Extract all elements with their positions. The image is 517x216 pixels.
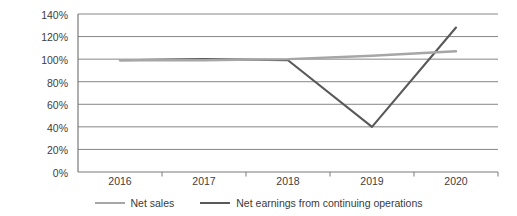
legend-label-net-earnings: Net earnings from continuing operations	[236, 198, 422, 209]
x-tick-label-2019: 2019	[360, 176, 383, 187]
x-tick-label-2016: 2016	[108, 176, 131, 187]
plot-area	[78, 14, 498, 172]
y-axis: 140% 120% 100% 80% 60% 40% 20% 0%	[0, 0, 74, 216]
y-tick-label-0: 0%	[53, 168, 68, 179]
legend-entry-net-earnings[interactable]: Net earnings from continuing operations	[200, 198, 422, 209]
chart-legend: Net sales Net earnings from continuing o…	[0, 195, 517, 211]
y-tick-label-40: 40%	[47, 123, 68, 134]
line-chart: 140% 120% 100% 80% 60% 40% 20% 0%	[0, 0, 517, 216]
x-tick-label-2017: 2017	[192, 176, 215, 187]
y-tick-label-80: 80%	[47, 78, 68, 89]
legend-swatch-net-sales	[95, 202, 125, 205]
y-tick-label-60: 60%	[47, 100, 68, 111]
y-tick-label-100: 100%	[41, 55, 68, 66]
series-line-net-earnings	[120, 28, 456, 127]
y-tick-label-140: 140%	[41, 10, 68, 21]
y-tick-label-120: 120%	[41, 32, 68, 43]
x-axis: 2016 2017 2018 2019 2020	[78, 176, 498, 192]
x-tick-label-2018: 2018	[276, 176, 299, 187]
legend-swatch-net-earnings	[200, 202, 230, 205]
series-lines	[78, 14, 498, 172]
legend-label-net-sales: Net sales	[131, 198, 175, 209]
x-tick-label-2020: 2020	[444, 176, 467, 187]
legend-entry-net-sales[interactable]: Net sales	[95, 198, 175, 209]
y-tick-label-20: 20%	[47, 145, 68, 156]
